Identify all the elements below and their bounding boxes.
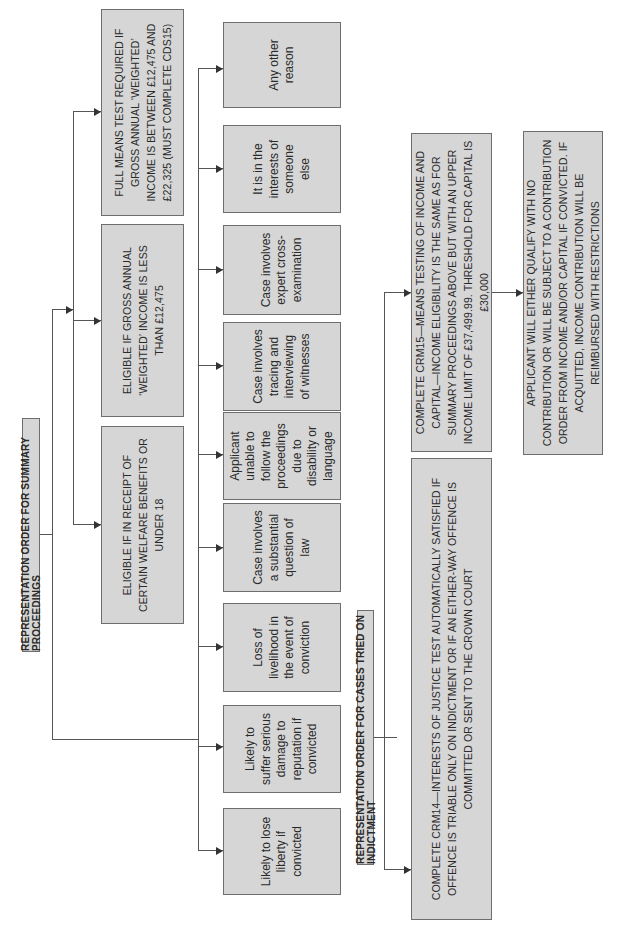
reason-box-liberty: Likely to lose liberty if convicted bbox=[223, 808, 341, 895]
legal-aid-flowchart: REPRESENTATION ORDER FOR SUMMARY PROCEED… bbox=[0, 0, 620, 931]
arrow-icon bbox=[94, 317, 101, 325]
connector bbox=[52, 310, 53, 740]
means-box-low-income: ELIGIBLE IF GROSS ANNUAL ‘WEIGHTED’ INCO… bbox=[101, 224, 184, 417]
reason-text: Case involves a substantial question of … bbox=[251, 510, 313, 585]
outcome-text: APPLICANT WILL EITHER QUALIFY WITH NO CO… bbox=[523, 138, 603, 448]
arrow-icon bbox=[94, 108, 101, 116]
reason-text: Likely to lose liberty if convicted bbox=[259, 815, 306, 888]
reason-box-reputation: Likely to suffer serious damage to reput… bbox=[223, 705, 341, 793]
arrow-icon bbox=[216, 165, 223, 173]
arrow-icon bbox=[216, 65, 223, 73]
reason-box-question-of-law: Case involves a substantial question of … bbox=[223, 503, 341, 592]
reason-box-expert: Case involves expert cross-examination bbox=[223, 225, 341, 315]
reason-text: Applicant unable to follow the proceedin… bbox=[228, 419, 337, 493]
connector bbox=[52, 739, 198, 740]
reason-box-unable-to-follow: Applicant unable to follow the proceedin… bbox=[223, 412, 341, 500]
reason-text: Likely to suffer serious damage to reput… bbox=[243, 712, 321, 786]
reason-text: It is in the interests of someone else bbox=[251, 132, 313, 206]
indictment-title: REPRESENTATION ORDER FOR CASES TRIED ON … bbox=[357, 610, 374, 865]
arrow-icon bbox=[216, 451, 223, 459]
crm14-box: COMPLETE CRM14—INTERESTS OF JUSTICE TEST… bbox=[411, 458, 492, 920]
reason-text: Case involves expert cross-examination bbox=[259, 232, 306, 308]
summary-proceedings-title: REPRESENTATION ORDER FOR SUMMARY PROCEED… bbox=[22, 418, 40, 652]
means-box-text: FULL MEANS TEST REQUIRED IF GROSS ANNUAL… bbox=[111, 16, 175, 209]
arrow-icon bbox=[94, 521, 101, 529]
means-box-text: ELIGIBLE IF IN RECEIPT OF CERTAIN WELFAR… bbox=[119, 433, 167, 617]
reason-box-livelihood: Loss of livelihood in the event of convi… bbox=[223, 603, 341, 692]
arrow-icon bbox=[404, 866, 411, 874]
crm15-box: COMPLETE CRM15—MEANS TESTING OF INCOME A… bbox=[411, 133, 492, 452]
reason-text: Loss of livelihood in the event of convi… bbox=[251, 610, 313, 685]
reason-box-other: Any other reason bbox=[223, 22, 341, 108]
reason-box-someone-else: It is in the interests of someone else bbox=[223, 125, 341, 213]
connector bbox=[384, 293, 385, 738]
arrow-icon bbox=[516, 289, 523, 297]
reason-box-witnesses: Case involves tracing and interviewing o… bbox=[223, 322, 341, 411]
arrow-icon bbox=[216, 847, 223, 855]
arrow-icon bbox=[216, 266, 223, 274]
means-box-welfare: ELIGIBLE IF IN RECEIPT OF CERTAIN WELFAR… bbox=[101, 426, 184, 624]
arrow-icon bbox=[66, 306, 73, 314]
connector bbox=[384, 737, 385, 870]
crm15-text: COMPLETE CRM15—MEANS TESTING OF INCOME A… bbox=[412, 140, 492, 445]
means-box-full-test: FULL MEANS TEST REQUIRED IF GROSS ANNUAL… bbox=[101, 9, 184, 216]
arrow-icon bbox=[216, 643, 223, 651]
arrow-icon bbox=[404, 289, 411, 297]
connector bbox=[198, 69, 199, 851]
outcome-box: APPLICANT WILL EITHER QUALIFY WITH NO CO… bbox=[523, 131, 603, 455]
connector bbox=[385, 737, 386, 738]
means-box-text: ELIGIBLE IF GROSS ANNUAL ‘WEIGHTED’ INCO… bbox=[119, 231, 167, 410]
arrow-icon bbox=[216, 743, 223, 751]
arrow-icon bbox=[216, 362, 223, 370]
reason-text: Any other reason bbox=[267, 29, 298, 101]
crm14-text: COMPLETE CRM14—INTERESTS OF JUSTICE TEST… bbox=[428, 465, 476, 913]
connector bbox=[73, 112, 74, 525]
arrow-icon bbox=[216, 544, 223, 552]
reason-text: Case involves tracing and interviewing o… bbox=[251, 329, 313, 404]
